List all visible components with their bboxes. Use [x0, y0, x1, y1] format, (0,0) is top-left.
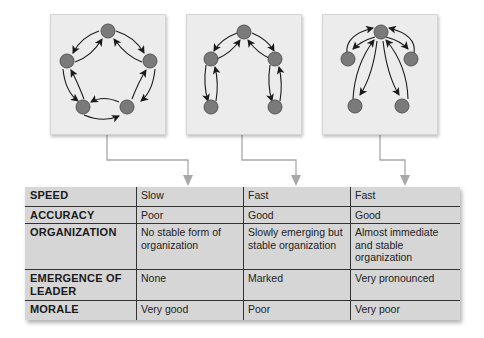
circle-network-diagram	[51, 15, 165, 134]
cell-wheel: Fast	[350, 187, 460, 206]
cell-circle: No stable form of organization	[136, 224, 243, 269]
chain-network-panel	[186, 14, 302, 135]
cell-chain: Slowly emerging but stable organization	[243, 224, 350, 269]
cell-chain: Marked	[243, 270, 350, 300]
row-label: EMERGENCE OF LEADER	[25, 270, 136, 300]
cell-circle: None	[136, 270, 243, 300]
column-divider	[350, 187, 351, 320]
row-label: MORALE	[25, 301, 136, 320]
cell-chain: Fast	[243, 187, 350, 206]
cell-wheel: Very poor	[350, 301, 460, 320]
cell-circle: Slow	[136, 187, 243, 206]
cell-chain: Poor	[243, 301, 350, 320]
cell-chain: Good	[243, 207, 350, 223]
cell-circle: Very good	[136, 301, 243, 320]
cell-wheel: Good	[350, 207, 460, 223]
circle-network-panel	[50, 14, 166, 135]
column-divider	[243, 187, 244, 320]
column-divider	[136, 187, 137, 320]
row-label: ORGANIZATION	[25, 224, 136, 269]
cell-wheel: Very pronounced	[350, 270, 460, 300]
row-label: ACCURACY	[25, 207, 136, 223]
wheel-network-diagram	[323, 15, 437, 134]
network-nodes	[60, 24, 157, 114]
row-label: SPEED	[25, 187, 136, 206]
chain-network-diagram	[187, 15, 301, 134]
cell-wheel: Almost immediate and stable organization	[350, 224, 460, 269]
wheel-network-panel	[322, 14, 438, 135]
comparison-table: SPEED Slow Fast Fast ACCURACY Poor Good …	[25, 187, 460, 320]
cell-circle: Poor	[136, 207, 243, 223]
